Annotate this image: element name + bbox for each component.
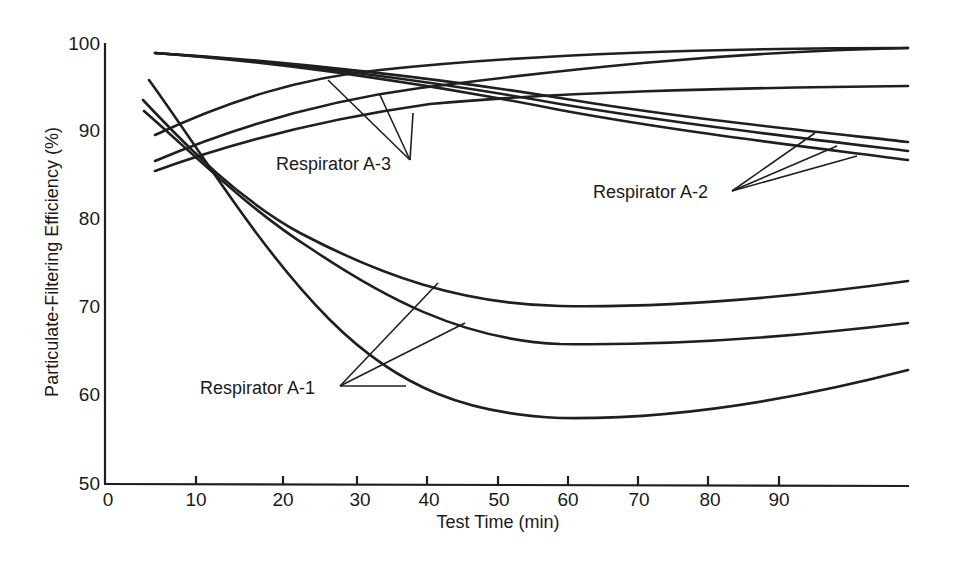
label-respirator-a1: Respirator A-1 [200, 378, 315, 398]
y-tick-60: 60 [79, 384, 100, 405]
label-respirator-a3: Respirator A-3 [276, 154, 391, 174]
x-tick-60: 60 [557, 489, 578, 510]
x-tick-90: 90 [768, 489, 789, 510]
line-chart: 100 90 80 70 60 50 0 10 20 30 40 50 60 7… [0, 0, 953, 563]
x-tick-30: 30 [349, 489, 370, 510]
x-tick-70: 70 [628, 489, 649, 510]
x-tick-20: 20 [272, 489, 293, 510]
x-tick-labels: 0 10 20 30 40 50 60 70 80 90 [103, 489, 790, 510]
x-axis-title: Test Time (min) [436, 512, 559, 532]
x-tick-80: 80 [699, 489, 720, 510]
y-tick-100: 100 [68, 33, 100, 54]
x-axis [104, 484, 909, 486]
y-tick-labels: 100 90 80 70 60 50 [68, 33, 100, 494]
x-tick-0: 0 [103, 489, 114, 510]
y-tick-70: 70 [79, 296, 100, 317]
series-respirator-a1 [143, 80, 908, 418]
series-respirator-a2 [155, 53, 908, 160]
y-tick-90: 90 [79, 120, 100, 141]
y-axis-title: Particulate-Filtering Efficiency (%) [42, 127, 62, 397]
y-tick-50: 50 [79, 473, 100, 494]
leaders-respirator-a1 [340, 283, 465, 386]
x-tick-10: 10 [185, 489, 206, 510]
y-tick-80: 80 [79, 208, 100, 229]
x-tick-50: 50 [488, 489, 509, 510]
x-tick-40: 40 [418, 489, 439, 510]
label-respirator-a2: Respirator A-2 [593, 182, 708, 202]
series-respirator-a3 [155, 48, 908, 171]
